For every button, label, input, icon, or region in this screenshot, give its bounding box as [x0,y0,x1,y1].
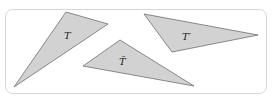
triangle-t-prime-shape [144,14,258,52]
triangle-t-prime-label: T′ [182,31,192,42]
triangle-t-shape [14,12,108,87]
triangles-diagram: T T̃ T′ [0,0,273,106]
triangle-t: T [14,12,108,87]
triangle-t-prime: T′ [144,14,258,52]
